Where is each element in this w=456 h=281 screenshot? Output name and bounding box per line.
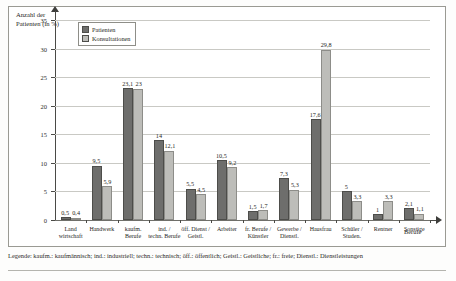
- bar-patienten: [311, 119, 321, 220]
- x-axis-title: Berufe: [404, 228, 421, 235]
- y-tick-label-20: 20: [41, 102, 48, 109]
- value-label: 5,5: [186, 180, 194, 187]
- value-label: 1,1: [416, 205, 424, 212]
- bar-konsultationen: [133, 89, 143, 220]
- x-axis-arrow-icon: [436, 216, 442, 224]
- plot-area: 0,50,49,55,923,1231412,15,54,510,59,21,5…: [55, 20, 430, 220]
- bar-group: [399, 208, 430, 220]
- value-label: 7,3: [280, 170, 288, 177]
- value-label: 10,5: [216, 152, 227, 159]
- x-tick: [336, 220, 337, 223]
- legend-label-konsultationen: Konsultationen: [92, 35, 130, 42]
- value-label: 9,2: [229, 159, 237, 166]
- chart-footnote: Legende: kaufm.: kaufmännisch; ind.: ind…: [8, 252, 446, 259]
- bar-patienten: [217, 160, 227, 220]
- value-label: 2,1: [405, 200, 413, 207]
- legend-swatch-patienten: [82, 26, 89, 33]
- bar-konsultationen: [289, 190, 299, 220]
- bar-patienten: [248, 211, 258, 220]
- legend-label-patienten: Patienten: [92, 26, 115, 33]
- legend-swatch-konsultationen: [82, 35, 89, 42]
- y-tick-label-10: 10: [41, 159, 48, 166]
- legend-item-patienten: Patienten: [82, 25, 130, 34]
- value-label: 1,7: [260, 202, 268, 209]
- bar-group: [305, 50, 336, 220]
- bar-konsultationen: [102, 186, 112, 220]
- y-axis-ticks: 05101520253035: [0, 20, 55, 220]
- bar-patienten: [92, 166, 102, 220]
- value-label: 0,4: [72, 209, 80, 216]
- bar-patienten: [342, 191, 352, 220]
- bar-group: [55, 217, 86, 220]
- bar-group: [336, 191, 367, 220]
- y-tick-label-0: 0: [44, 217, 47, 224]
- bar-konsultationen: [321, 50, 331, 220]
- y-tick-label-25: 25: [41, 74, 48, 81]
- value-label: 3,3: [354, 193, 362, 200]
- value-label: 5: [345, 183, 348, 190]
- x-tick: [368, 220, 369, 223]
- value-label: 14: [156, 132, 162, 139]
- x-tick: [430, 220, 431, 223]
- value-label: 1: [376, 206, 379, 213]
- chart-legend: Patienten Konsultationen: [78, 22, 136, 46]
- x-tick: [211, 220, 212, 223]
- bar-konsultationen: [258, 210, 268, 220]
- bar-patienten: [123, 88, 133, 220]
- bar-konsultationen: [352, 201, 362, 220]
- y-tick-label-15: 15: [41, 131, 48, 138]
- bar-konsultationen: [414, 214, 424, 220]
- bar-groups: 0,50,49,55,923,1231412,15,54,510,59,21,5…: [55, 20, 430, 220]
- bar-patienten: [279, 178, 289, 220]
- value-label: 5,9: [104, 178, 112, 185]
- value-label: 23: [136, 80, 142, 87]
- bar-konsultationen: [71, 218, 81, 220]
- bar-patienten: [61, 217, 71, 220]
- bar-konsultationen: [383, 201, 393, 220]
- bar-group: [274, 178, 305, 220]
- bar-konsultationen: [227, 167, 237, 220]
- bar-patienten: [404, 208, 414, 220]
- value-label: 1,5: [249, 203, 257, 210]
- bar-group: [243, 210, 274, 220]
- legend-item-konsultationen: Konsultationen: [82, 34, 130, 43]
- y-tick-label-5: 5: [44, 188, 47, 195]
- bar-konsultationen: [196, 194, 206, 220]
- y-tick-label-35: 35: [41, 17, 48, 24]
- x-tick: [399, 220, 400, 223]
- value-label: 4,5: [197, 186, 205, 193]
- bar-group: [118, 88, 149, 220]
- bar-group: [149, 140, 180, 220]
- bar-group: [211, 160, 242, 220]
- x-tick: [274, 220, 275, 223]
- bar-group: [180, 189, 211, 220]
- value-label: 5,3: [291, 181, 299, 188]
- x-axis-category-labels: LandwirtschaftHandwerkkaufm.Berufeind. /…: [55, 226, 438, 248]
- x-tick: [86, 220, 87, 223]
- y-tick-label-30: 30: [41, 45, 48, 52]
- x-tick: [305, 220, 306, 223]
- x-tick: [118, 220, 119, 223]
- bar-patienten: [154, 140, 164, 220]
- bar-patienten: [373, 214, 383, 220]
- chart-figure: Anzahl der Patienten (in %) 051015202530…: [0, 0, 456, 281]
- bar-group: [86, 166, 117, 220]
- value-label: 29,8: [321, 41, 332, 48]
- value-label: 0,5: [61, 209, 69, 216]
- value-label: 9,5: [93, 157, 101, 164]
- bar-patienten: [186, 189, 196, 220]
- bar-group: [368, 201, 399, 220]
- value-label: 3,3: [385, 193, 393, 200]
- x-tick: [180, 220, 181, 223]
- value-label: 17,6: [310, 111, 321, 118]
- x-tick: [149, 220, 150, 223]
- value-label: 23,1: [122, 80, 133, 87]
- x-tick: [243, 220, 244, 223]
- value-label: 12,1: [164, 142, 175, 149]
- bottom-rule: [8, 270, 446, 271]
- bar-konsultationen: [164, 151, 174, 220]
